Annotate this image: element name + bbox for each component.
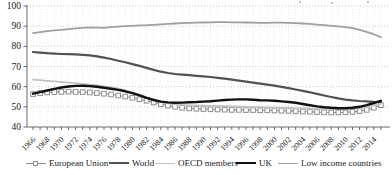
x-tick-label: 1986 (162, 135, 180, 153)
x-tick-labels: 1966196819701972197419761978198019821984… (20, 135, 378, 153)
x-tick-label: 2008 (318, 135, 336, 153)
x-tick-label: 2002 (275, 135, 293, 153)
y-tick-label: 40 (12, 122, 22, 132)
legend-label: World (132, 158, 154, 168)
x-tick-label: 2006 (304, 135, 322, 153)
y-tick-label: 50 (12, 102, 22, 112)
y-tick-label: 80 (12, 41, 22, 51)
x-tick-label: 1980 (119, 135, 137, 153)
y-tick-labels: 405060708090100 (7, 1, 22, 132)
x-tick-label: 1988 (176, 135, 194, 153)
y-tick-label: 90 (12, 21, 22, 31)
legend-item-low-income-countries: Low income countries (278, 154, 381, 172)
legend-item-european-union: European Union (26, 154, 108, 172)
legend-line-sample-oecd-members (155, 163, 175, 164)
x-tick-label: 1984 (148, 135, 166, 153)
y-tick-label: 70 (12, 62, 22, 72)
legend-line-sample-european-union (26, 163, 46, 164)
x-tick-label: 2004 (290, 135, 308, 153)
legend-line-sample-low-income-countries (278, 163, 298, 164)
x-tick-label: 1976 (91, 135, 109, 153)
legend-item-uk: UK (236, 154, 272, 172)
legend-item-oecd-members: OECD members (155, 154, 238, 172)
x-tick-label: 1990 (190, 135, 208, 153)
x-tick-label: 1970 (48, 135, 66, 153)
cropped-title-fragment (367, 1, 369, 3)
x-tick-label: 2010 (332, 135, 350, 153)
x-tick-label: 2000 (261, 135, 279, 153)
y-tick-label: 60 (12, 82, 22, 92)
cropped-title-fragment (331, 2, 333, 4)
chart-legend: European UnionWorldOECD membersUKLow inc… (0, 154, 392, 172)
legend-label: Low income countries (301, 158, 381, 168)
x-tick-label: 1974 (77, 135, 95, 153)
x-tick-label: 1998 (247, 135, 265, 153)
y-tick-label: 100 (7, 1, 22, 11)
x-tick-label: 1968 (34, 135, 52, 153)
legend-item-world: World (109, 154, 154, 172)
legend-label: OECD members (178, 158, 238, 168)
x-tick-label: 2014 (361, 135, 379, 153)
legend-label: European Union (49, 158, 108, 168)
x-tick-label: 1972 (62, 135, 80, 153)
x-tick-label: 1978 (105, 135, 123, 153)
axes (24, 5, 391, 130)
x-tick-label: 1994 (219, 135, 237, 153)
line-chart: 4050607080901001966196819701972197419761… (0, 0, 392, 175)
chart-svg: 4050607080901001966196819701972197419761… (0, 0, 392, 175)
x-tick-label: 1996 (233, 135, 251, 153)
legend-line-sample-uk (236, 162, 256, 164)
series-line-low-income-countries (33, 22, 381, 37)
x-tick-label: 1966 (20, 135, 38, 153)
x-tick-label: 1992 (204, 135, 222, 153)
legend-label: UK (259, 158, 272, 168)
open-square-marker-icon (33, 161, 38, 166)
x-tick-label: 1982 (133, 135, 151, 153)
cropped-title-fragment (299, 1, 301, 3)
legend-line-sample-world (109, 162, 129, 164)
x-tick-label: 2012 (346, 135, 364, 153)
